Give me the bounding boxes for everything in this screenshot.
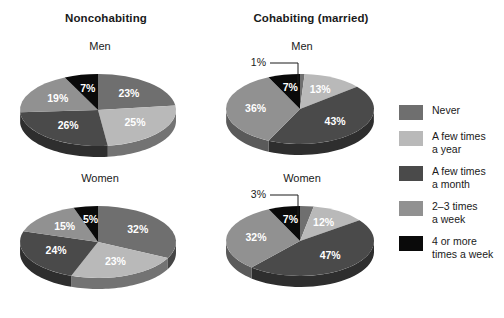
legend-swatch [399, 105, 423, 120]
pie-svg: 3%12%47%32%7% [218, 190, 388, 296]
legend-item: 2–3 times a week [399, 200, 504, 225]
legend-item: Never [399, 104, 504, 120]
pie-slice-label: 7% [283, 213, 299, 225]
pie-slice-callout-label: 3% [251, 188, 266, 200]
pie-slice-label: 23% [118, 87, 140, 99]
pie-chart-figure: Noncohabiting Cohabiting (married) Men M… [0, 0, 504, 318]
panel-title-cohabiting-men: Men [212, 40, 392, 52]
pie-slice-label: 7% [80, 82, 96, 94]
pie-slice-label: 7% [283, 81, 299, 93]
legend-label: A few times a year [432, 130, 486, 155]
pie-noncohabiting-women: 32%23%24%15%5% [12, 190, 198, 296]
panel-title-noncohabiting-women: Women [0, 172, 200, 184]
pie-slice-label: 32% [246, 231, 268, 243]
pie-slice-label: 19% [47, 92, 69, 104]
panel-title-noncohabiting-men: Men [0, 40, 200, 52]
legend-item: 4 or more times a week [399, 235, 504, 260]
column-title-cohabiting: Cohabiting (married) [205, 12, 417, 24]
panel-title-cohabiting-women: Women [212, 172, 392, 184]
pie-svg: 23%25%26%19%7% [12, 58, 198, 164]
legend-swatch [399, 236, 423, 251]
pie-svg: 32%23%24%15%5% [12, 190, 198, 296]
pie-slice-label: 43% [325, 115, 347, 127]
legend-label: 2–3 times a week [432, 200, 478, 225]
pie-slice-label: 24% [46, 244, 68, 256]
pie-svg: 1%13%43%36%7% [218, 58, 388, 164]
legend-swatch [399, 131, 423, 146]
pie-slice-callout-label: 1% [251, 56, 266, 68]
pie-slice-label: 36% [245, 102, 267, 114]
pie-slice-label: 47% [320, 249, 342, 261]
legend: NeverA few times a yearA few times a mon… [399, 104, 504, 260]
pie-slice-label: 23% [105, 255, 127, 267]
pie-slice-label: 15% [54, 220, 76, 232]
legend-label: A few times a month [432, 165, 486, 190]
legend-item: A few times a month [399, 165, 504, 190]
legend-label: 4 or more times a week [432, 235, 493, 260]
legend-label: Never [432, 104, 460, 117]
pie-slice-label: 26% [58, 119, 80, 131]
legend-swatch [399, 201, 423, 216]
pie-slice-label: 5% [83, 213, 99, 225]
pie-slice-label: 12% [313, 216, 335, 228]
pie-slice-label: 25% [124, 116, 146, 128]
pie-slice-label: 32% [127, 223, 149, 235]
pie-slice-label: 13% [310, 83, 332, 95]
column-title-noncohabiting: Noncohabiting [0, 12, 212, 24]
legend-swatch [399, 166, 423, 181]
pie-cohabiting-women: 3%12%47%32%7% [218, 190, 388, 296]
legend-item: A few times a year [399, 130, 504, 155]
pie-cohabiting-men: 1%13%43%36%7% [218, 58, 388, 164]
pie-noncohabiting-men: 23%25%26%19%7% [12, 58, 198, 164]
